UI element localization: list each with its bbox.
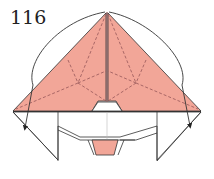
- left-pink-flap: [13, 13, 106, 111]
- bottom-pink-tab: [88, 140, 124, 155]
- right-pink-flap: [108, 13, 201, 111]
- origami-diagram: [0, 0, 214, 179]
